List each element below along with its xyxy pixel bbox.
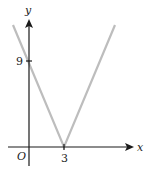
origin-label: O: [17, 150, 26, 163]
y-axis-label: y: [24, 4, 32, 17]
graph-line: [13, 25, 115, 147]
x-axis-label: x: [137, 141, 144, 154]
x-tick-label: 3: [61, 152, 68, 165]
graph-canvas: y x O 3 9: [0, 0, 149, 171]
y-tick-label: 9: [16, 55, 23, 68]
